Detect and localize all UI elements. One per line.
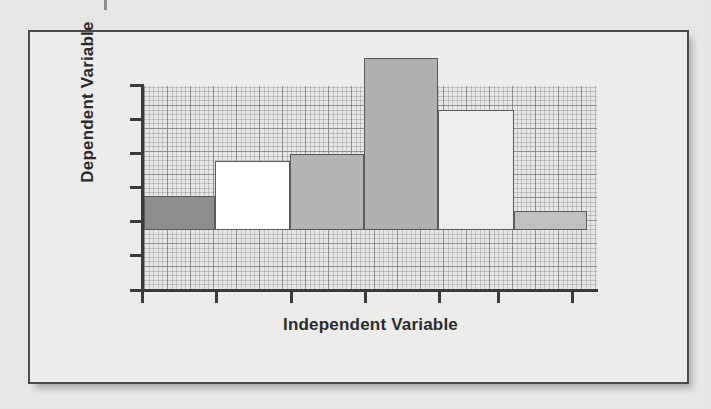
bar-6 [514,211,587,230]
bar-chart: Dependent Variable Independent Variable [30,32,687,382]
y-axis-tick [130,220,144,223]
y-axis-title: Dependent Variable [78,2,98,202]
bar-2 [215,161,290,230]
x-axis-tick [141,290,144,303]
x-axis-tick [571,290,574,303]
bar-1 [144,196,215,230]
x-axis-title: Independent Variable [144,315,597,335]
y-axis-tick [130,186,144,189]
y-axis-tick [130,254,144,257]
y-axis-tick [130,152,144,155]
bar-5 [438,110,514,230]
bar-3 [290,154,364,230]
figure-frame: Dependent Variable Independent Variable [28,30,689,384]
x-axis-tick [438,290,441,303]
y-axis-tick [130,84,144,87]
x-axis-tick [497,290,500,303]
x-axis-line [141,289,598,292]
x-axis-tick [290,290,293,303]
bar-4 [364,58,438,230]
x-axis-tick [215,290,218,303]
y-axis-tick [130,118,144,121]
scan-artifact-mark [104,0,107,10]
x-axis-tick [364,290,367,303]
